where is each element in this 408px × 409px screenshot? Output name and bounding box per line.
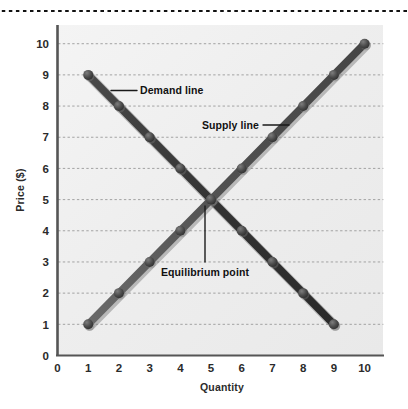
equilibrium-point-label: Equilibrium point (161, 266, 249, 278)
x-tick-label: 9 (331, 362, 337, 374)
data-point-marker (329, 319, 339, 329)
supply-line-label: Supply line (202, 119, 259, 131)
y-tick-label: 6 (43, 163, 49, 175)
x-tick-label: 4 (177, 362, 184, 374)
data-point-marker (298, 101, 308, 111)
data-point-marker (145, 257, 155, 267)
data-point-marker (329, 70, 339, 80)
y-tick-label: 8 (43, 100, 50, 112)
x-tick-label: 8 (300, 362, 307, 374)
x-tick-label: 10 (358, 362, 371, 374)
y-tick-label: 2 (43, 287, 49, 299)
data-point-marker (175, 226, 185, 236)
x-tick-label: 3 (146, 362, 152, 374)
x-tick-label: 2 (116, 362, 122, 374)
data-point-marker (267, 132, 277, 142)
data-point-marker (237, 226, 247, 236)
x-axis-title: Quantity (200, 381, 244, 393)
y-axis-title: Price ($) (14, 168, 26, 211)
data-point-marker (267, 257, 277, 267)
x-tick-label: 7 (269, 362, 275, 374)
data-point-marker (145, 132, 155, 142)
y-tick-label: 5 (43, 194, 50, 206)
data-point-marker (83, 70, 93, 80)
data-point-marker (175, 163, 185, 173)
data-point-marker (114, 288, 124, 298)
x-axis-tick-labels: 012345678910 (54, 362, 371, 374)
x-tick-label: 5 (208, 362, 215, 374)
data-point-marker (298, 288, 308, 298)
supply-demand-chart: 012345678910 012345678910 Price ($) Quan… (0, 0, 408, 409)
y-axis-tick-labels: 012345678910 (36, 38, 49, 362)
y-tick-label: 4 (43, 225, 50, 237)
data-point-marker (83, 319, 93, 329)
x-tick-label: 0 (54, 362, 60, 374)
data-point-marker (206, 195, 216, 205)
y-tick-label: 0 (43, 350, 49, 362)
data-point-marker (237, 163, 247, 173)
demand-line-label: Demand line (140, 84, 204, 96)
y-tick-label: 10 (36, 38, 49, 50)
x-tick-label: 6 (239, 362, 245, 374)
y-tick-label: 1 (43, 319, 50, 331)
data-point-marker (114, 101, 124, 111)
y-tick-label: 3 (43, 256, 49, 268)
x-tick-label: 1 (85, 362, 92, 374)
supply-demand-figure: 012345678910 012345678910 Price ($) Quan… (0, 0, 408, 409)
y-tick-label: 7 (43, 131, 49, 143)
y-tick-label: 9 (43, 69, 49, 81)
data-point-marker (360, 39, 370, 49)
